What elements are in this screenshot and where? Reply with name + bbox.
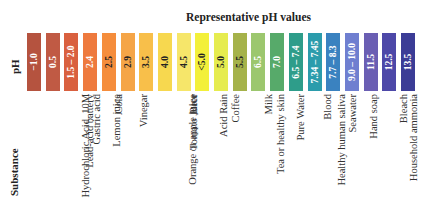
substance-label: Bleach (382, 94, 396, 206)
substance-label: Acid Rain (195, 94, 209, 206)
ph-value: <5.0 (197, 53, 207, 70)
ph-bar: 6.5 – 7.4 (289, 33, 303, 91)
substance-label: Hand soap (345, 94, 359, 206)
ph-value: −1.0 (29, 53, 39, 70)
substance-label: Pure Water (270, 94, 284, 206)
ph-value: 13.5 (403, 54, 413, 71)
substance-label: Cola (102, 94, 116, 206)
ph-bar: 11.5 (364, 33, 378, 91)
ph-value: 2.5 (104, 56, 114, 68)
ph-bar: 13.5 (401, 33, 415, 91)
ph-bar: 3.5 (139, 33, 153, 91)
ph-value: 4.5 (179, 56, 189, 68)
ph-value: 7.7 – 8.3 (328, 45, 338, 78)
substance-row-label: Substance (8, 148, 20, 196)
ph-bar: 5.0 (214, 33, 228, 91)
substance-label: Orange or apple juice (139, 94, 153, 206)
ph-bar: 7.7 – 8.3 (326, 33, 340, 91)
ph-bar: 5.5 (233, 33, 247, 91)
substance-label: Beer (177, 94, 191, 206)
ph-value: 2.4 (85, 56, 95, 68)
substance-label: Lemon juice (83, 94, 97, 206)
ph-value: 4.0 (160, 56, 170, 68)
ph-value: 7.0 (272, 56, 282, 68)
substance-label: Lead-acid battery (46, 94, 60, 206)
ph-value: 6.5 (253, 56, 263, 68)
ph-value: 5.5 (235, 56, 245, 68)
substance-label: Household lye (401, 94, 415, 206)
ph-bar: 9.0 – 10.0 (345, 33, 359, 91)
substance-label: Tomato Juice (158, 94, 172, 206)
ph-bar: 7.34 – 7.45 (308, 33, 322, 91)
ph-value: 6.5 – 7.4 (291, 45, 301, 78)
substance-label: Milk (251, 94, 265, 206)
substance-label: Blood (308, 94, 322, 206)
substance-label: Seawater (326, 94, 340, 206)
ph-bar: 4.0 (158, 33, 172, 91)
ph-value: 9.0 – 10.0 (347, 43, 357, 81)
ph-bar: 12.5 (382, 33, 396, 91)
ph-bar: 7.0 (270, 33, 284, 91)
ph-row-label: pH (9, 59, 21, 74)
ph-value: 2.9 (123, 56, 133, 68)
ph-bar: 2.9 (121, 33, 135, 91)
substance-label: Hydrochloric Acid, 10M (27, 94, 41, 206)
substance-label: Coffee (214, 94, 228, 206)
ph-bar: 6.5 (251, 33, 265, 91)
ph-bar: <5.0 (195, 33, 209, 91)
substance-label: Household ammonia (364, 94, 378, 206)
ph-bar: 2.4 (83, 33, 97, 91)
ph-value: 5.0 (216, 56, 226, 68)
ph-value: 3.5 (141, 56, 151, 68)
ph-value: 12.5 (384, 54, 394, 71)
ph-bar: −1.0 (27, 33, 41, 91)
ph-value: 7.34 – 7.45 (310, 41, 320, 84)
ph-value: 1.5 – 2.0 (66, 45, 76, 78)
substance-label: Healthy human saliva (289, 94, 303, 206)
ph-bar: 0.5 (46, 33, 60, 91)
substance-label: Gastric acid (64, 94, 78, 206)
ph-bar: 4.5 (177, 33, 191, 91)
ph-bar: 2.5 (102, 33, 116, 91)
ph-bar: 1.5 – 2.0 (64, 33, 78, 91)
ph-value: 11.5 (366, 54, 376, 70)
substance-label: Tea or healthy skin (233, 94, 247, 206)
chart-title: Representative pH values (0, 11, 427, 23)
ph-value: 0.5 (48, 56, 58, 68)
substance-label: Vinegar (121, 94, 135, 206)
